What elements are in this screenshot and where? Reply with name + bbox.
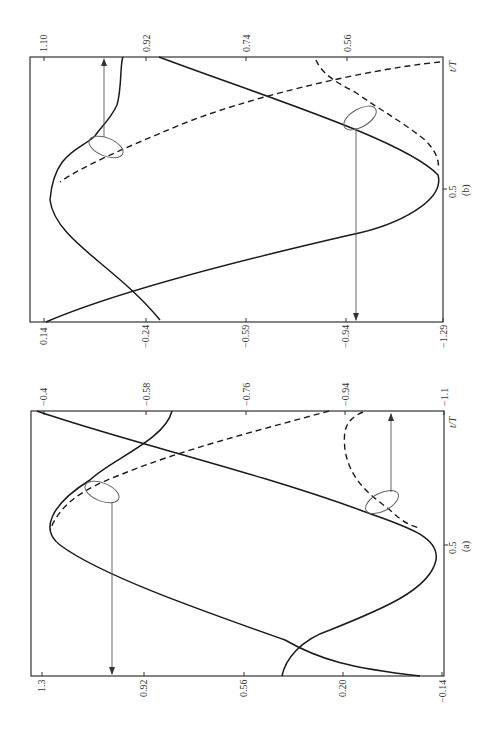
tick-label: 0.20 (337, 680, 348, 698)
arrowhead-icon (101, 58, 107, 66)
panel-a-dashed-curve-2 (344, 412, 420, 528)
x-axis-label: t/T (447, 415, 458, 428)
tick-label: 0.92 (141, 35, 152, 53)
tick-label: −0.4 (38, 388, 49, 406)
tick-label: 0.56 (238, 680, 249, 698)
x-tick-label: 0.5 (447, 186, 458, 199)
panel-a-solid-curve-2 (37, 411, 436, 676)
panel-b-solid-curve-2 (46, 57, 439, 322)
tick-label: −0.94 (340, 383, 351, 406)
figure-canvas: 1.10 0.92 0.74 0.56 0.14 −0.24 −0.59 −0.… (0, 0, 498, 734)
panel-b-bottom-labels: 0.14 −0.24 −0.59 −0.94 −1.29 (38, 325, 449, 348)
panel-a-frame (31, 411, 444, 676)
panel-a-bottom-labels: 1.3 0.92 0.56 0.20 −0.14 (36, 680, 448, 704)
panel-a-top-labels: −0.4 −0.58 −0.76 −0.94 −1.1 (38, 383, 450, 406)
panel-a: −0.4 −0.58 −0.76 −0.94 −1.1 1.3 0.92 0.5… (31, 383, 472, 703)
annotation-ellipse (340, 101, 380, 135)
tick-label: 1.10 (38, 35, 49, 53)
panel-b-dashed-curve-2 (316, 60, 438, 170)
tick-label: 0.92 (138, 680, 149, 698)
panel-caption: (a) (460, 541, 472, 552)
arrowhead-icon (388, 413, 394, 421)
tick-label: 0.14 (38, 328, 49, 346)
panel-a-solid-curve-1 (50, 411, 420, 676)
tick-label: 1.3 (36, 680, 47, 693)
annotation-ellipse (86, 132, 126, 162)
arrowhead-icon (353, 313, 359, 321)
tick-label: −0.14 (437, 680, 448, 703)
tick-label: −1.1 (439, 388, 450, 406)
tick-label: −0.58 (141, 383, 152, 406)
tick-label: −0.94 (340, 325, 351, 348)
tick-label: −0.76 (241, 383, 252, 406)
tick-label: −0.24 (140, 325, 151, 348)
panel-b: 1.10 0.92 0.74 0.56 0.14 −0.24 −0.59 −0.… (30, 35, 472, 349)
panel-b-dashed-curve (60, 62, 440, 182)
panel-b-frame (30, 57, 443, 322)
panel-b-top-labels: 1.10 0.92 0.74 0.56 (38, 35, 353, 53)
x-tick-label: 0.5 (447, 542, 458, 555)
x-axis-label: t/T (447, 59, 458, 72)
panel-b-solid-sinusoid (50, 57, 160, 320)
tick-label: 0.56 (342, 35, 353, 53)
tick-label: −0.59 (240, 325, 251, 348)
arrowhead-icon (109, 667, 115, 675)
tick-label: −1.29 (438, 325, 449, 348)
tick-label: 0.74 (241, 35, 252, 53)
panel-caption: (b) (460, 184, 472, 196)
